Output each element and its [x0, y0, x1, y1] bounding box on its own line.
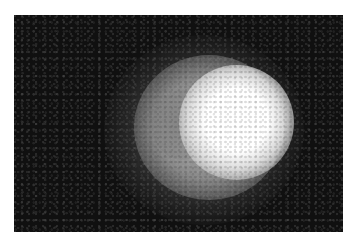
sphere-speckle	[104, 35, 304, 225]
image-frame	[14, 15, 343, 232]
image-canvas	[0, 0, 357, 245]
